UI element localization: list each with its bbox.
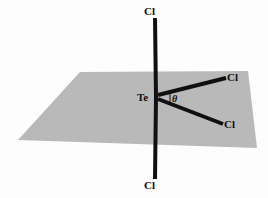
atom-label-cl-upper-right: Cl	[227, 72, 238, 83]
angle-label-theta: θ	[172, 94, 177, 104]
atom-label-cl-top: Cl	[144, 6, 155, 17]
bond-te-cl-bottom	[155, 97, 156, 179]
figure-canvas	[0, 0, 268, 198]
atom-label-cl-bottom: Cl	[144, 180, 155, 191]
equatorial-plane	[18, 71, 257, 148]
bond-te-cl-top	[155, 18, 156, 97]
atom-label-cl-lower-right: Cl	[224, 119, 235, 130]
molecular-geometry-figure: Cl Te Cl Cl Cl θ	[0, 0, 268, 198]
atom-label-te-center: Te	[137, 92, 148, 103]
